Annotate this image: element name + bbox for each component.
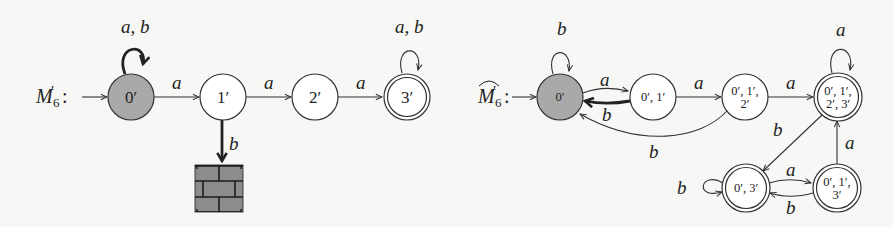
- right-edge-013-0123-label: a: [845, 132, 855, 153]
- right-title: M ′ 6 :: [477, 81, 510, 110]
- automata-diagram: M ′ 6 : a, b a a a a, b b 0′: [0, 0, 893, 227]
- right-state-012-line1: 0′, 1′,: [731, 84, 758, 98]
- left-state-1-label: 1′: [217, 88, 229, 107]
- right-edge-0123-03-label: b: [773, 119, 783, 140]
- right-state-013-line1: 0′, 1′,: [823, 175, 850, 189]
- right-loop-0: [552, 53, 570, 74]
- right-state-01: 0′, 1′: [630, 74, 676, 120]
- right-loop-0123: [831, 49, 851, 73]
- right-state-0123-line1: 0′, 1′,: [824, 84, 851, 98]
- right-edge-013-03-label: b: [786, 197, 796, 218]
- left-state-3: 3′: [384, 74, 430, 120]
- left-edge-1-dead-label: b: [229, 133, 239, 154]
- right-loop-03: [703, 180, 723, 194]
- right-loop-03-label: b: [677, 177, 687, 198]
- right-title-colon: :: [504, 85, 510, 107]
- right-edge-012-0123-label: a: [786, 72, 796, 93]
- left-edge-1-2-label: a: [264, 72, 274, 93]
- right-state-01-label: 0′, 1′: [641, 90, 665, 104]
- left-loop-0-label: a, b: [121, 16, 150, 37]
- right-state-0-label: 0′: [556, 90, 565, 104]
- left-loop-3: [401, 51, 419, 73]
- left-title-colon: :: [62, 85, 68, 107]
- right-title-sub: 6: [495, 95, 502, 110]
- left-state-3-label: 3′: [401, 88, 413, 107]
- right-state-012: 0′, 1′, 2′: [722, 74, 768, 120]
- right-state-0: 0′: [537, 74, 583, 120]
- left-loop-3-label: a, b: [395, 16, 424, 37]
- right-state-012-line2: 2′: [741, 97, 750, 111]
- left-loop-0: [123, 49, 144, 74]
- right-edge-0-01-label: a: [600, 69, 610, 90]
- right-state-013-line2: 3′: [833, 188, 842, 202]
- right-state-03: 0′, 3′: [722, 164, 770, 212]
- left-title-sub: 6: [53, 95, 60, 110]
- left-state-0-label: 0′: [125, 88, 137, 107]
- right-edge-01-0: [585, 101, 630, 103]
- right-loop-0123-label: a: [836, 19, 846, 40]
- right-edge-01-0-label: b: [602, 104, 612, 125]
- left-title: M ′ 6 :: [35, 83, 68, 110]
- right-edge-03-013-label: a: [786, 159, 796, 180]
- left-edge-0-1-label: a: [172, 72, 182, 93]
- right-state-03-label: 0′, 3′: [734, 181, 758, 195]
- left-automaton: M ′ 6 : a, b a a a a, b b 0′: [35, 16, 430, 212]
- right-edge-013-03: [770, 193, 813, 196]
- right-edge-012-0-label: b: [649, 141, 659, 162]
- right-automaton: M ′ 6 : b a b a b a a b b: [477, 18, 862, 218]
- left-state-0: 0′: [108, 74, 154, 120]
- left-state-2: 2′: [292, 74, 338, 120]
- left-state-2-label: 2′: [309, 88, 321, 107]
- left-state-1: 1′: [200, 74, 246, 120]
- right-state-0123-line2: 2′, 3′: [826, 97, 850, 111]
- right-state-013: 0′, 1′, 3′: [813, 164, 861, 212]
- right-state-0123: 0′, 1′, 2′, 3′: [814, 73, 862, 121]
- left-edge-2-3-label: a: [356, 72, 366, 93]
- right-loop-0-label: b: [557, 18, 567, 39]
- right-edge-01-012-label: a: [694, 72, 704, 93]
- brick-wall-icon: [195, 165, 243, 212]
- right-edge-03-013: [769, 180, 811, 183]
